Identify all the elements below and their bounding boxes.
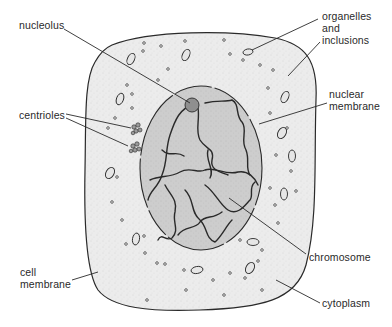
cell-diagram: nucleolus organelles and inclusions nucl… bbox=[0, 0, 392, 327]
nucleolus-body bbox=[185, 98, 199, 112]
nucleus bbox=[140, 86, 262, 250]
label-organelles-1: organelles bbox=[322, 11, 371, 22]
label-cell-membrane-2: membrane bbox=[20, 279, 71, 290]
label-organelles-2: and bbox=[322, 23, 340, 34]
label-cytoplasm: cytoplasm bbox=[322, 298, 370, 309]
label-centrioles: centrioles bbox=[19, 110, 65, 121]
label-organelles-3: inclusions bbox=[322, 35, 369, 46]
label-cell-membrane-1: cell bbox=[20, 267, 36, 278]
label-nuclear-membrane-1: nuclear bbox=[329, 89, 364, 100]
label-chromosome: chromosome bbox=[309, 252, 371, 263]
label-nuclear-membrane-2: membrane bbox=[329, 101, 380, 112]
label-nucleolus: nucleolus bbox=[19, 20, 64, 31]
